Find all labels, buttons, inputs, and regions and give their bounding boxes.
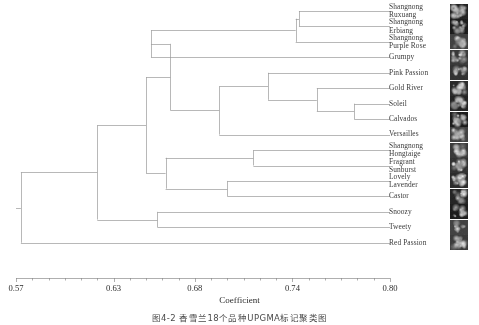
leaf-label: Soleil xyxy=(389,100,407,108)
dendrogram-figure: Shangnong RuxuangShangnong ErbiangShangn… xyxy=(0,0,479,325)
axis-tick-label: 0.80 xyxy=(370,283,410,293)
leaf-label: Calvados xyxy=(389,115,417,123)
axis-tick-label: 0.68 xyxy=(175,283,215,293)
leaf-thumbnail xyxy=(450,50,468,65)
figure-caption: 图4-2 香雪兰18个品种UPGMA标记聚类图 xyxy=(0,311,479,323)
axis-tick-label: 0.74 xyxy=(272,283,312,293)
leaf-label: Gold River xyxy=(389,84,423,92)
leaf-thumbnail xyxy=(450,235,468,250)
leaf-thumbnail xyxy=(450,4,468,19)
leaf-thumbnail xyxy=(450,96,468,111)
leaf-thumbnail xyxy=(450,220,468,235)
leaf-label: Lovely Lavender xyxy=(389,173,418,189)
leaf-label: Red Passion xyxy=(389,239,426,247)
leaf-label: Shangnong Purple Rose xyxy=(389,34,426,50)
leaf-thumbnail xyxy=(450,204,468,219)
leaf-thumbnail xyxy=(450,127,468,142)
leaf-thumbnail xyxy=(450,19,468,34)
leaf-thumbnail xyxy=(450,112,468,127)
leaf-thumbnail xyxy=(450,34,468,49)
axis-title: Coefficient xyxy=(0,295,479,305)
axis-tick-label: 0.57 xyxy=(0,283,36,293)
leaf-label: Pink Passion xyxy=(389,69,428,77)
axis-tick-label: 0.63 xyxy=(94,283,134,293)
leaf-thumbnail xyxy=(450,173,468,188)
leaf-label: Shangnong Hongtaige xyxy=(389,142,423,158)
leaf-thumbnail xyxy=(450,81,468,96)
leaf-label: Castor xyxy=(389,192,409,200)
leaf-label: Grumpy xyxy=(389,53,414,61)
leaf-label: Snoozy xyxy=(389,208,412,216)
leaf-thumbnail xyxy=(450,158,468,173)
leaf-label: Versailles xyxy=(389,130,419,138)
leaf-label: Tweety xyxy=(389,223,411,231)
leaf-thumbnail xyxy=(450,189,468,204)
leaf-thumbnail xyxy=(450,65,468,80)
leaf-thumbnail xyxy=(450,143,468,158)
